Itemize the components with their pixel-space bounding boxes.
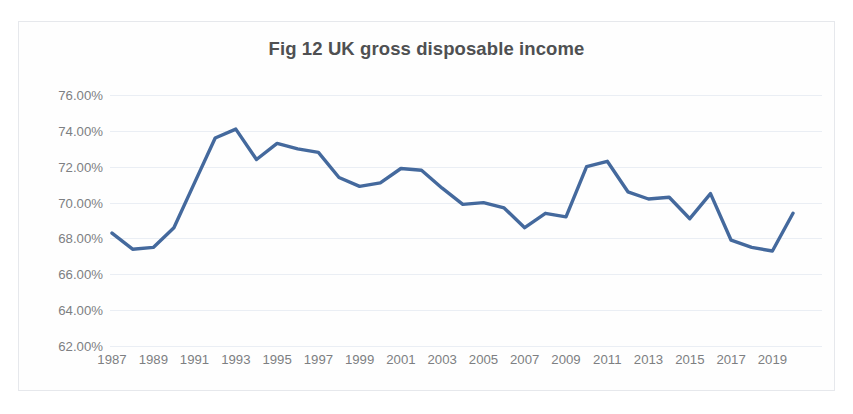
chart-page: Fig 12 UK gross disposable income 76.00%… xyxy=(0,0,853,414)
x-axis-tick-label: 1995 xyxy=(262,352,291,367)
x-axis-tick-label: 2005 xyxy=(469,352,498,367)
series-line-uk-gross-disposable-income xyxy=(112,129,793,251)
x-axis-tick-label: 2009 xyxy=(551,352,580,367)
x-axis-tick-label: 2017 xyxy=(716,352,745,367)
line-chart-plot-area: 76.00%74.00%72.00%70.00%68.00%66.00%64.0… xyxy=(0,0,853,414)
x-axis-tick-label: 2003 xyxy=(428,352,457,367)
x-axis-tick-label: 2019 xyxy=(758,352,787,367)
x-axis-tick-label: 1987 xyxy=(97,352,126,367)
x-axis-tick-label: 1999 xyxy=(345,352,374,367)
x-axis-tick-label: 2007 xyxy=(510,352,539,367)
x-axis-tick-label: 1993 xyxy=(221,352,250,367)
x-axis-tick-label: 2011 xyxy=(593,352,621,367)
x-axis-tick-label: 2015 xyxy=(675,352,704,367)
x-axis-tick-label: 1997 xyxy=(304,352,333,367)
x-axis-tick-label: 2013 xyxy=(634,352,663,367)
x-axis-tick-labels: 1987198919911993199519971999200120032005… xyxy=(0,352,853,374)
x-axis-tick-label: 2001 xyxy=(386,352,415,367)
x-axis-tick-label: 1989 xyxy=(139,352,168,367)
x-axis-tick-label: 1991 xyxy=(180,352,209,367)
